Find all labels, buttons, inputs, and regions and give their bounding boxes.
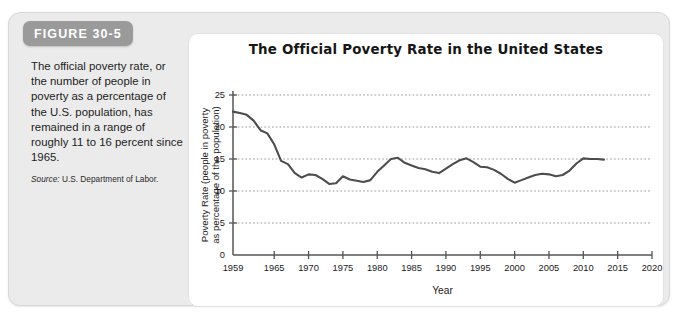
- x-tick-label-1970: 1970: [298, 263, 319, 273]
- x-tick-label-1995: 1995: [470, 263, 491, 273]
- y-axis-title-line1: Poverty Rate (people in poverty: [199, 108, 210, 243]
- x-tick-label-1965: 1965: [264, 263, 285, 273]
- x-tick-label-2000: 2000: [504, 263, 525, 273]
- x-axis-group: 1959196519701975198019851990199520002005…: [223, 251, 663, 273]
- figure-screenshot: FIGURE 30-5 The official poverty rate, o…: [0, 0, 688, 325]
- y-tick-label-25: 25: [215, 90, 225, 100]
- x-tick-label-1975: 1975: [333, 263, 354, 273]
- figure-number-badge: FIGURE 30-5: [23, 21, 133, 46]
- x-tick-label-1985: 1985: [401, 263, 422, 273]
- poverty-rate-line: [233, 112, 604, 184]
- x-tick-label-2020: 2020: [642, 263, 663, 273]
- x-tick-label-1990: 1990: [436, 263, 457, 273]
- figure-number-label: FIGURE 30-5: [23, 27, 122, 41]
- figure-panel: FIGURE 30-5 The official poverty rate, o…: [8, 12, 670, 306]
- x-axis-title: Year: [432, 285, 453, 296]
- caption-source-text: U.S. Department of Labor.: [62, 174, 158, 184]
- poverty-rate-line-chart: 0510152025 19591965197019751980198519901…: [189, 34, 663, 306]
- y-axis-title-line2: as percentage of the population): [210, 106, 221, 244]
- x-tick-label-2015: 2015: [607, 263, 628, 273]
- caption-body: The official poverty rate, or the number…: [31, 59, 183, 165]
- x-tick-label-1959: 1959: [223, 263, 244, 273]
- y-tick-label-0: 0: [220, 250, 225, 260]
- x-tick-label-2005: 2005: [539, 263, 560, 273]
- caption-source: Source: U.S. Department of Labor.: [31, 174, 183, 185]
- chart-card: The Official Poverty Rate in the United …: [188, 33, 664, 307]
- figure-caption: The official poverty rate, or the number…: [31, 59, 183, 185]
- x-tick-label-1980: 1980: [367, 263, 388, 273]
- x-tick-label-2010: 2010: [573, 263, 594, 273]
- caption-source-prefix: Source:: [31, 174, 60, 184]
